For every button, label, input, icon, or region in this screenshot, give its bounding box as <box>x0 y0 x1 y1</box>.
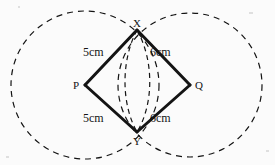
vertex-label-x: X <box>133 18 141 29</box>
edge-length-px: 5cm <box>83 46 104 58</box>
lens-arc-left <box>125 30 137 132</box>
vertex-label-y: Y <box>133 136 141 147</box>
scan-speck <box>266 150 269 152</box>
scan-speck <box>6 156 9 158</box>
scan-speck <box>249 12 253 14</box>
geometry-diagram: X P Q Y 5cm 6cm 5cm 6cm <box>0 0 275 165</box>
edge-length-yq: 6cm <box>150 112 171 124</box>
edge-length-xq: 6cm <box>150 46 171 58</box>
scan-speck <box>18 6 20 8</box>
edge-length-py: 5cm <box>83 112 104 124</box>
vertex-label-q: Q <box>195 80 203 91</box>
vertex-label-p: P <box>73 80 79 91</box>
